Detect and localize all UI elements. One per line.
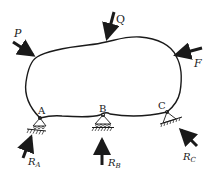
free-body-diagram: P Q F A RA [0,0,212,171]
reaction-b-label: RB [107,157,121,170]
reaction-c-label: RC [182,151,197,164]
support-b: B RB [92,103,121,170]
force-q-label: Q [116,13,125,26]
arrow-icon [181,130,197,146]
support-a-label: A [37,105,46,116]
support-c-label: C [158,100,166,111]
force-p-label: P [13,27,22,40]
force-q: Q [107,12,125,38]
support-c: C RC [158,100,197,164]
support-a: A RA [23,105,46,169]
arrow-icon [107,12,114,38]
force-f-label: F [193,57,202,70]
force-p: P [13,27,33,55]
reaction-a-label: RA [27,156,41,169]
arrow-icon [13,42,33,55]
arrow-icon [176,48,202,55]
support-b-label: B [99,103,106,114]
arrow-icon [23,137,31,158]
